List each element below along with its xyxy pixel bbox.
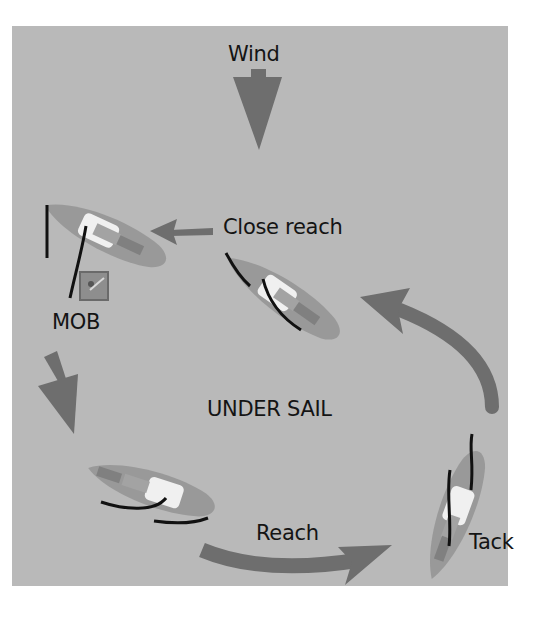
boat-tack bbox=[415, 445, 494, 584]
boat-close-reach bbox=[217, 244, 348, 350]
mob-down-arrow-icon bbox=[38, 351, 78, 434]
sail-reach-jib bbox=[154, 518, 208, 523]
close-reach-label: Close reach bbox=[223, 217, 342, 238]
wind-label: Wind bbox=[228, 44, 280, 65]
tack-to-close-reach-arrow-icon bbox=[360, 288, 492, 407]
person-overboard-icon bbox=[80, 272, 108, 300]
reach-arrow-icon bbox=[202, 545, 392, 585]
tack-label: Tack bbox=[469, 532, 514, 553]
boat-reach bbox=[83, 451, 220, 525]
boat-mob bbox=[38, 190, 173, 278]
close-reach-arrow-icon bbox=[150, 219, 213, 245]
wind-arrow-icon bbox=[233, 69, 282, 150]
under-sail-title: UNDER SAIL bbox=[207, 399, 332, 420]
sail-tack-jib bbox=[471, 434, 472, 490]
sail-tack-main bbox=[449, 470, 450, 546]
mob-label: MOB bbox=[52, 312, 100, 333]
reach-label: Reach bbox=[256, 523, 319, 544]
